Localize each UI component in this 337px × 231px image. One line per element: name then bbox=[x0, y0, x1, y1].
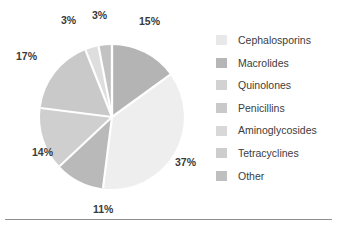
legend-swatch-icon bbox=[216, 80, 227, 90]
pie-percentage-label: 17% bbox=[16, 50, 37, 62]
legend-swatch-icon bbox=[216, 126, 227, 136]
pie-chart-figure: 15%37%11%14%17%3%3% CephalosporinsMacrol… bbox=[0, 0, 337, 231]
pie-chart-svg bbox=[0, 0, 210, 212]
legend-item[interactable]: Cephalosporins bbox=[216, 29, 337, 52]
pie-percentage-label: 3% bbox=[92, 9, 107, 21]
legend-swatch-icon bbox=[216, 148, 227, 158]
legend-item-label: Quinolones bbox=[238, 80, 291, 91]
legend-item[interactable]: Macrolides bbox=[216, 52, 337, 75]
legend-swatch-icon bbox=[216, 171, 227, 181]
legend-swatch-icon bbox=[216, 58, 227, 68]
pie-percentage-label: 3% bbox=[61, 14, 76, 26]
legend-item[interactable]: Other bbox=[216, 165, 337, 188]
pie-chart-plot-area: 15%37%11%14%17%3%3% bbox=[0, 0, 210, 212]
legend-item-label: Tetracyclines bbox=[238, 148, 299, 159]
legend-item[interactable]: Tetracyclines bbox=[216, 142, 337, 165]
pie-percentage-label: 11% bbox=[93, 203, 113, 215]
legend-item[interactable]: Penicillins bbox=[216, 97, 337, 120]
pie-percentage-label: 14% bbox=[32, 146, 53, 158]
pie-percentage-label: 15% bbox=[139, 15, 160, 27]
pie-percentage-label: 37% bbox=[175, 156, 196, 168]
legend-item[interactable]: Aminoglycosides bbox=[216, 119, 337, 142]
legend-item-label: Other bbox=[238, 171, 264, 182]
legend-item-label: Aminoglycosides bbox=[238, 125, 317, 136]
legend-swatch-icon bbox=[216, 35, 227, 45]
legend-item-label: Macrolides bbox=[238, 58, 289, 69]
legend-item-label: Cephalosporins bbox=[238, 35, 311, 46]
chart-legend: CephalosporinsMacrolidesQuinolonesPenici… bbox=[216, 29, 337, 187]
legend-item[interactable]: Quinolones bbox=[216, 74, 337, 97]
legend-item-label: Penicillins bbox=[238, 103, 285, 114]
legend-swatch-icon bbox=[216, 103, 227, 113]
footer-divider bbox=[5, 219, 332, 220]
